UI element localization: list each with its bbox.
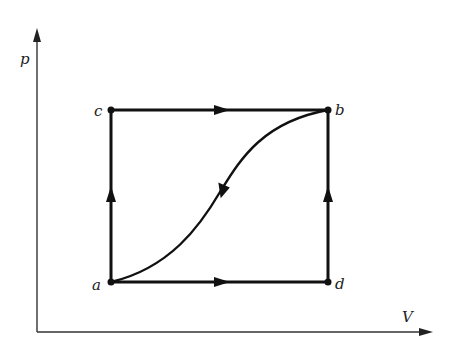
label-b: b (335, 101, 345, 119)
y-axis-arrow-icon (33, 28, 41, 42)
label-a: a (92, 276, 101, 294)
vertex-c (108, 107, 115, 114)
label-c: c (94, 102, 103, 120)
pv-diagram: p V c b a d (0, 0, 452, 355)
label-d: d (335, 275, 345, 293)
vertices (108, 107, 332, 286)
y-axis-label: p (20, 50, 30, 68)
cycle-paths (111, 110, 328, 282)
vertex-d (325, 279, 332, 286)
arrow-right-icon (214, 105, 230, 115)
arrow-right-icon (214, 277, 230, 287)
vertex-a (108, 279, 115, 286)
x-axis-arrow-icon (419, 328, 433, 336)
path-b-a-curve (111, 110, 328, 282)
vertex-b (325, 107, 332, 114)
arrow-up-icon (106, 186, 116, 202)
direction-arrows (106, 105, 333, 287)
arrow-up-icon (323, 186, 333, 202)
x-axis-label: V (402, 308, 415, 326)
